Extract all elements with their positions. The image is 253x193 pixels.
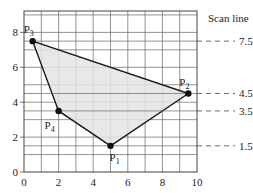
y-tick-label: 8 (13, 26, 19, 38)
scan-line-diagram: 7.54.53.51.5 P1P2P3P4 024681002468 Scan … (0, 0, 253, 193)
y-tick-label: 6 (13, 61, 19, 73)
scan-line-label: 4.5 (239, 87, 253, 99)
scan-line-label: 1.5 (239, 140, 253, 152)
scan-line-label: 3.5 (239, 105, 253, 117)
vertex-point-p4 (55, 108, 61, 114)
y-tick-label: 0 (13, 166, 19, 178)
x-tick-label: 0 (21, 176, 27, 188)
vertex-label-p2: P2 (179, 76, 189, 91)
y-tick-label: 4 (13, 96, 19, 108)
x-tick-label: 4 (90, 176, 96, 188)
x-tick-label: 6 (125, 176, 131, 188)
scan-line-title: Scan line (208, 12, 249, 24)
vertex-label-p1: P1 (110, 151, 120, 166)
x-tick-label: 10 (192, 176, 204, 188)
vertex-point-p3 (29, 38, 35, 44)
x-tick-label: 8 (160, 176, 166, 188)
vertex-label-p3: P3 (24, 23, 34, 38)
vertex-point-p1 (107, 143, 113, 149)
vertex-label-p4: P4 (45, 119, 55, 134)
y-tick-label: 2 (13, 131, 19, 143)
scan-line-label: 7.5 (239, 35, 253, 47)
x-tick-label: 2 (56, 176, 62, 188)
